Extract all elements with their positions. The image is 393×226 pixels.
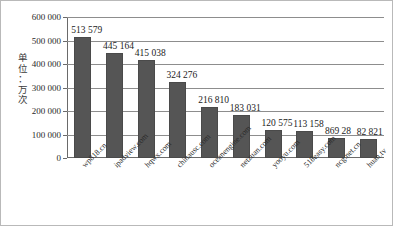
y-axis-title-char: ： bbox=[15, 74, 31, 85]
y-tick-mark bbox=[63, 88, 67, 89]
y-tick-mark bbox=[63, 64, 67, 65]
bar bbox=[74, 37, 91, 158]
y-tick-mark bbox=[63, 111, 67, 112]
y-tick-label: 300 000 bbox=[32, 83, 61, 93]
bar-value-label: 415 038 bbox=[135, 48, 166, 58]
y-tick-mark bbox=[63, 135, 67, 136]
y-tick-mark bbox=[63, 17, 67, 18]
bar-value-label: 445 164 bbox=[103, 41, 134, 51]
bar-value-label: 324 276 bbox=[166, 70, 197, 80]
y-axis-title-char: 单 bbox=[15, 53, 31, 64]
y-tick-mark bbox=[63, 41, 67, 42]
chart-figure: 单 位 ： 万 次 0100 000200 000300 000400 0005… bbox=[0, 0, 393, 226]
bar-value-label: 183 031 bbox=[230, 103, 261, 113]
bar-value-label: 869 28 bbox=[325, 126, 351, 136]
bar-value-label: 82 821 bbox=[357, 127, 383, 137]
y-axis-title-char: 次 bbox=[15, 95, 31, 106]
y-tick-label: 400 000 bbox=[32, 59, 61, 69]
y-tick-label: 200 000 bbox=[32, 106, 61, 116]
y-tick-label: 600 000 bbox=[32, 12, 61, 22]
bar-value-label: 216 810 bbox=[198, 95, 229, 105]
bar-value-label: 113 158 bbox=[293, 119, 324, 129]
y-tick-mark bbox=[63, 158, 67, 159]
bar bbox=[106, 53, 123, 158]
y-axis-title: 单 位 ： 万 次 bbox=[15, 53, 31, 106]
bar-value-label: 513 579 bbox=[71, 25, 102, 35]
y-tick-label: 100 000 bbox=[32, 130, 61, 140]
y-tick-label: 0 bbox=[57, 153, 62, 163]
gridline bbox=[67, 17, 384, 18]
plot-area: 0100 000200 000300 000400 000500 000600 … bbox=[67, 17, 384, 158]
y-tick-label: 500 000 bbox=[32, 36, 61, 46]
bar-value-label: 120 575 bbox=[262, 118, 293, 128]
